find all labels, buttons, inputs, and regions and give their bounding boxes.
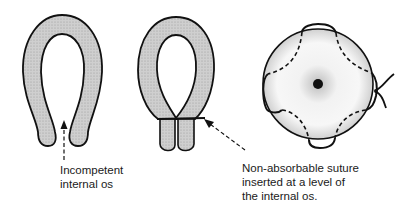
label-line: Non-absorbable suture (242, 161, 359, 175)
suture-arrow (204, 119, 245, 150)
cervical-os (313, 79, 323, 89)
suture-line (157, 118, 205, 119)
label-line: the internal os. (242, 189, 359, 203)
cerclage-cervix-shape (138, 17, 214, 151)
label-line: Incompetent (60, 163, 123, 177)
label-line: internal os (60, 177, 123, 191)
cerclage-end-view (263, 24, 394, 148)
incompetent-os-arrow (61, 120, 68, 160)
incompetent-os-label: Incompetent internal os (60, 163, 123, 191)
suture-label: Non-absorbable suture inserted at a leve… (242, 161, 359, 203)
label-line: inserted at a level of (242, 175, 359, 189)
